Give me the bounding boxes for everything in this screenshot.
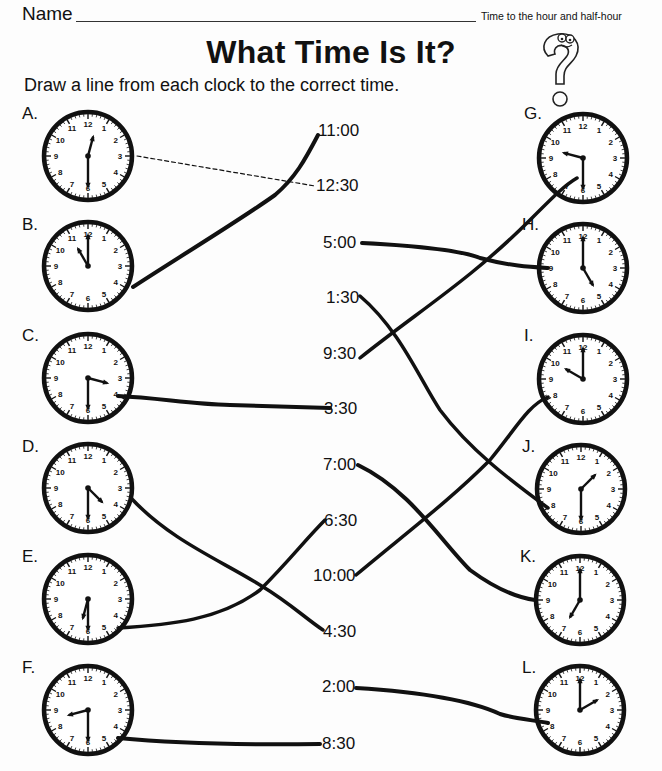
- svg-text:4: 4: [113, 722, 118, 731]
- svg-text:7: 7: [565, 403, 570, 412]
- question-mark-mascot-icon: [530, 30, 590, 110]
- svg-text:4: 4: [113, 168, 118, 177]
- clock-k[interactable]: 123456789101112: [532, 552, 628, 648]
- clock-letter-f: F.: [22, 658, 35, 678]
- svg-text:1: 1: [594, 568, 599, 577]
- time-option[interactable]: 1:30: [326, 288, 359, 308]
- svg-text:5: 5: [102, 512, 107, 521]
- svg-text:3: 3: [118, 595, 123, 604]
- svg-text:5: 5: [102, 402, 107, 411]
- clock-letter-d: D.: [22, 437, 39, 457]
- svg-text:7: 7: [562, 624, 567, 633]
- svg-text:12: 12: [579, 122, 588, 131]
- svg-text:4: 4: [606, 501, 611, 510]
- svg-text:2: 2: [113, 246, 118, 255]
- svg-text:9: 9: [549, 154, 554, 163]
- svg-text:12: 12: [84, 452, 93, 461]
- svg-text:9: 9: [54, 595, 59, 604]
- match-line-b: [133, 135, 318, 287]
- clock-b[interactable]: 123456789101112: [40, 218, 136, 314]
- clock-letter-i: I.: [524, 326, 533, 346]
- svg-text:10: 10: [56, 358, 65, 367]
- time-option[interactable]: 7:00: [323, 455, 356, 475]
- svg-text:9: 9: [546, 596, 551, 605]
- svg-text:1: 1: [594, 678, 599, 687]
- svg-text:5: 5: [595, 513, 600, 522]
- time-option[interactable]: 2:00: [322, 677, 355, 697]
- svg-text:9: 9: [549, 264, 554, 273]
- svg-text:8: 8: [550, 722, 555, 731]
- svg-text:1: 1: [102, 678, 107, 687]
- clock-h[interactable]: 123456789101112: [535, 220, 631, 316]
- svg-text:5: 5: [102, 290, 107, 299]
- svg-text:8: 8: [58, 500, 63, 509]
- svg-text:9: 9: [549, 375, 554, 384]
- svg-text:7: 7: [562, 734, 567, 743]
- svg-text:1: 1: [597, 126, 602, 135]
- svg-text:11: 11: [68, 678, 77, 687]
- svg-text:3: 3: [611, 485, 616, 494]
- svg-text:3: 3: [118, 374, 123, 383]
- time-option[interactable]: 4:30: [323, 622, 356, 642]
- name-input-line[interactable]: [76, 21, 476, 22]
- svg-text:9: 9: [54, 484, 59, 493]
- svg-text:1: 1: [597, 347, 602, 356]
- time-option[interactable]: 10:00: [313, 566, 356, 586]
- time-option[interactable]: 9:30: [323, 344, 356, 364]
- time-option[interactable]: 6:30: [324, 511, 357, 531]
- svg-text:2: 2: [113, 358, 118, 367]
- svg-text:11: 11: [560, 678, 569, 687]
- match-line-e: [118, 520, 325, 628]
- svg-text:8: 8: [58, 611, 63, 620]
- clock-f[interactable]: 123456789101112: [40, 662, 136, 758]
- svg-text:3: 3: [118, 706, 123, 715]
- svg-text:6: 6: [578, 628, 583, 637]
- clock-c[interactable]: 123456789101112: [40, 330, 136, 426]
- time-option[interactable]: 12:30: [316, 176, 359, 196]
- svg-text:10: 10: [548, 690, 557, 699]
- svg-text:10: 10: [551, 248, 560, 257]
- svg-text:5: 5: [102, 734, 107, 743]
- svg-text:7: 7: [70, 290, 75, 299]
- match-line-k: [358, 465, 535, 600]
- svg-text:4: 4: [113, 611, 118, 620]
- svg-text:7: 7: [70, 734, 75, 743]
- svg-text:7: 7: [70, 623, 75, 632]
- svg-text:10: 10: [548, 580, 557, 589]
- svg-text:8: 8: [550, 612, 555, 621]
- clock-j[interactable]: 123456789101112: [533, 441, 629, 537]
- time-option[interactable]: 8:30: [322, 734, 355, 754]
- svg-text:8: 8: [58, 168, 63, 177]
- svg-text:5: 5: [597, 182, 602, 191]
- svg-text:10: 10: [56, 468, 65, 477]
- svg-text:5: 5: [597, 403, 602, 412]
- svg-text:11: 11: [68, 124, 77, 133]
- svg-text:2: 2: [113, 690, 118, 699]
- svg-text:9: 9: [54, 374, 59, 383]
- time-option[interactable]: 3:30: [324, 399, 357, 419]
- svg-text:6: 6: [86, 294, 91, 303]
- clock-i[interactable]: 123456789101112: [535, 331, 631, 427]
- svg-text:11: 11: [560, 568, 569, 577]
- svg-text:7: 7: [70, 512, 75, 521]
- clock-g[interactable]: 123456789101112: [535, 110, 631, 206]
- time-option[interactable]: 11:00: [318, 121, 359, 141]
- match-line-j: [360, 296, 548, 508]
- svg-text:2: 2: [608, 138, 613, 147]
- clock-a[interactable]: 123456789101112: [40, 108, 136, 204]
- svg-text:7: 7: [565, 182, 570, 191]
- svg-text:11: 11: [563, 236, 572, 245]
- match-line-f: [118, 738, 320, 744]
- svg-text:2: 2: [608, 359, 613, 368]
- svg-text:8: 8: [58, 390, 63, 399]
- clock-l[interactable]: 123456789101112: [532, 662, 628, 758]
- svg-text:10: 10: [56, 579, 65, 588]
- svg-text:3: 3: [118, 152, 123, 161]
- svg-text:4: 4: [113, 390, 118, 399]
- clock-d[interactable]: 123456789101112: [40, 440, 136, 536]
- svg-text:6: 6: [581, 296, 586, 305]
- svg-text:2: 2: [605, 690, 610, 699]
- clock-e[interactable]: 123456789101112: [40, 551, 136, 647]
- time-option[interactable]: 5:00: [323, 233, 356, 253]
- svg-text:7: 7: [565, 292, 570, 301]
